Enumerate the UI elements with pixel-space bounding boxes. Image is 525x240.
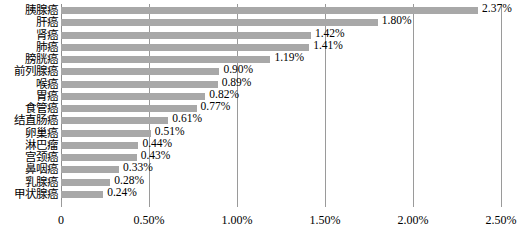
bar [61,179,110,186]
x-axis-tick-labels: 00.50%1.00%1.50%2.00%2.50% [0,212,525,232]
bar [61,191,103,198]
bar-value-label: 0.43% [141,149,171,162]
bar [61,56,270,63]
x-tick-mark [237,200,238,207]
x-tick-label: 1.50% [310,212,341,228]
x-tick-mark [413,200,414,207]
bar-value-label: 2.37% [482,2,512,15]
category-label: 甲状腺癌 [14,188,58,201]
bar-value-label: 0.82% [209,88,239,101]
bar [61,81,218,88]
bar [61,93,205,100]
bar-value-label: 0.61% [172,112,202,125]
x-tick-mark [501,200,502,207]
x-axis-tick-marks [61,200,501,208]
bar-row: 0.51% [61,127,501,140]
gridline [501,4,502,200]
bar-row: 0.44% [61,139,501,152]
bar [61,105,197,112]
x-tick-mark [149,200,150,207]
bar-row: 0.24% [61,188,501,201]
bar [61,44,309,51]
plot-area: 2.37%1.80%1.42%1.41%1.19%0.90%0.89%0.82%… [61,4,501,200]
x-tick-label: 2.50% [486,212,517,228]
bar-value-label: 0.77% [201,100,231,113]
bar [61,19,378,26]
bar-value-label: 0.89% [222,76,252,89]
bar-row: 0.77% [61,102,501,115]
x-tick-label: 0.50% [134,212,165,228]
bar-rows: 2.37%1.80%1.42%1.41%1.19%0.90%0.89%0.82%… [61,4,501,200]
bar-value-label: 1.19% [274,51,304,64]
bar-row: 0.82% [61,90,501,103]
bar-value-label: 1.41% [313,39,343,52]
bar [61,166,119,173]
bar [61,68,219,75]
bar [61,32,311,39]
bar [61,142,138,149]
category-axis-labels: 胰腺癌肝癌肾癌肺癌膀胱癌前列腺癌喉癌胃癌食管癌结直肠癌卵巢癌淋巴瘤宫颈癌鼻咽癌乳… [0,4,58,200]
x-tick-mark [61,200,62,207]
x-tick-mark [325,200,326,207]
bar-row: 0.89% [61,78,501,91]
bar [61,130,151,137]
bar-value-label: 1.42% [315,27,345,40]
bar-value-label: 0.28% [114,174,144,187]
bar-row: 1.42% [61,29,501,42]
bar-value-label: 0.24% [107,186,137,199]
bar-chart: 胰腺癌肝癌肾癌肺癌膀胱癌前列腺癌喉癌胃癌食管癌结直肠癌卵巢癌淋巴瘤宫颈癌鼻咽癌乳… [0,0,525,240]
bar-value-label: 0.90% [223,63,253,76]
bar [61,117,168,124]
bar-value-label: 0.33% [123,161,153,174]
bar-row: 1.80% [61,16,501,29]
x-tick-label: 2.00% [398,212,429,228]
bar-row: 1.19% [61,53,501,66]
bar-row: 2.37% [61,4,501,17]
x-tick-label: 0 [58,212,64,228]
bar-value-label: 0.44% [142,137,172,150]
bar [61,154,137,161]
bar [61,7,478,14]
bar-row: 0.90% [61,65,501,78]
bar-row: 0.61% [61,114,501,127]
bar-value-label: 0.51% [155,125,185,138]
bar-value-label: 1.80% [382,14,412,27]
x-tick-label: 1.00% [222,212,253,228]
